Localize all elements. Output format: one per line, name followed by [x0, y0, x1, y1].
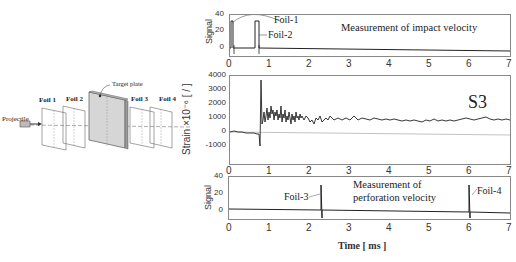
foil-1-annotation: Foil-1 [274, 14, 298, 25]
middle-plot-area: S3 [229, 75, 511, 165]
target-plate-label: Target plate [112, 80, 143, 87]
foil-4-label: Foil 4 [159, 95, 176, 103]
foil-2-annotation: Foil-2 [268, 29, 292, 40]
top-plot-area: Foil-1 Foil-2 Measurement of impact velo… [229, 14, 511, 57]
top-ytick-20: 20 [198, 25, 224, 34]
x-axis-label: Time [ ms ] [338, 240, 386, 251]
setup-illustration [0, 80, 210, 190]
foil-3-label: Foil 3 [131, 95, 148, 103]
foil-3-annotation: Foil-3 [284, 191, 308, 202]
bottom-title: Measurement of perforation velocity [353, 178, 436, 204]
top-title: Measurement of impact velocity [341, 22, 477, 33]
strain-trace [230, 76, 510, 164]
projectile-label: Projectile [2, 115, 29, 123]
middle-ylabel: Strain ×10⁻⁶ [ / ] [181, 83, 192, 155]
top-ytick-40: 40 [198, 9, 224, 18]
bottom-plot-area: Foil-3 Foil-4 Measurement of perforation… [228, 176, 511, 220]
foil-1-label: Foil 1 [39, 96, 56, 104]
s3-label: S3 [468, 92, 487, 113]
foil-4-annotation: Foil-4 [477, 185, 501, 196]
foil-2-label: Foil 2 [66, 95, 83, 103]
bottom-xticks: 0 1 2 3 4 5 6 7 [229, 222, 511, 234]
target-plate [89, 85, 128, 149]
top-xticks: 0 1 2 3 4 5 6 7 [229, 58, 511, 70]
top-ytick-0: 0 [198, 42, 224, 51]
setup-diagram: Projectile Foil 1 Foil 2 Foil 3 Foil 4 T… [0, 80, 210, 190]
